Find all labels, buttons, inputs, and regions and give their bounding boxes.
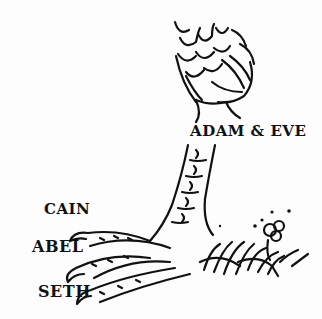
dots-icon bbox=[219, 209, 291, 228]
label-adam-and-eve: ADAM & EVE bbox=[190, 122, 306, 140]
illustration-canvas: ADAM & EVE CAIN ABEL SETH bbox=[0, 0, 322, 319]
label-seth: SETH bbox=[38, 282, 91, 301]
label-abel: ABEL bbox=[32, 237, 83, 256]
bird-foot-drawing bbox=[0, 0, 322, 319]
feathers-icon bbox=[175, 22, 254, 104]
grass-icon bbox=[200, 242, 308, 276]
label-cain: CAIN bbox=[44, 200, 90, 218]
